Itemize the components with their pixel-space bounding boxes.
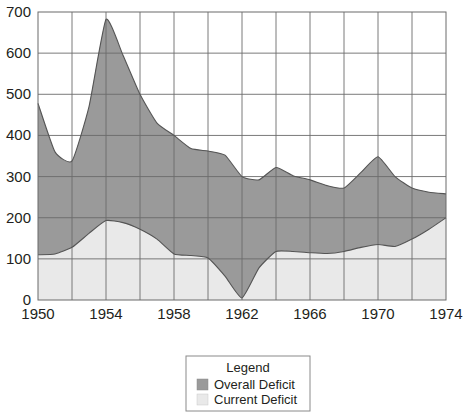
legend-swatch-overall-deficit (197, 379, 208, 390)
legend-label-current-deficit: Current Deficit (214, 392, 297, 407)
y-axis-tick-labels: 0100200300400500600700 (6, 3, 31, 308)
legend-swatch-current-deficit (197, 394, 208, 405)
y-tick-label-300: 300 (6, 168, 31, 185)
x-tick-label-1966: 1966 (293, 305, 326, 322)
chart-figure: 0100200300400500600700 19501954195819621… (0, 0, 476, 417)
x-axis-tick-labels: 1950195419581962196619701974 (21, 305, 462, 322)
y-tick-label-600: 600 (6, 44, 31, 61)
x-tick-label-1962: 1962 (225, 305, 258, 322)
x-tick-label-1950: 1950 (21, 305, 54, 322)
legend-label-overall-deficit: Overall Deficit (214, 377, 295, 392)
chart-legend: Legend Overall Deficit Current Deficit (186, 356, 310, 411)
legend-title: Legend (226, 360, 269, 375)
x-tick-label-1958: 1958 (157, 305, 190, 322)
y-tick-label-700: 700 (6, 3, 31, 20)
deficit-area-chart: 0100200300400500600700 19501954195819621… (0, 0, 476, 417)
y-tick-label-200: 200 (6, 209, 31, 226)
y-tick-label-400: 400 (6, 126, 31, 143)
x-tick-label-1970: 1970 (361, 305, 394, 322)
y-tick-label-100: 100 (6, 250, 31, 267)
x-tick-label-1954: 1954 (89, 305, 122, 322)
y-tick-label-500: 500 (6, 85, 31, 102)
x-tick-label-1974: 1974 (429, 305, 462, 322)
